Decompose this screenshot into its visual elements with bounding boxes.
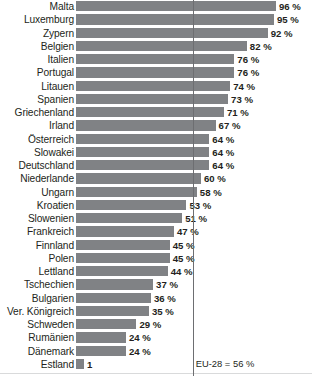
bar-track: 64 % [76,146,312,159]
bar [76,54,234,64]
bar [76,187,197,197]
category-label: Lettland [0,265,74,278]
bar-row: Malta96 % [0,0,312,13]
bar [76,253,170,263]
value-label: 71 % [224,106,249,119]
eu-average-reference-line [193,0,194,376]
bar-row: Portugal76 % [0,66,312,79]
bar-row: Estland1 [0,358,312,371]
bar-row: Spanien73 % [0,93,312,106]
bar [76,226,174,236]
bar-track: 51 % [76,212,312,225]
category-label: Slowenien [0,212,74,225]
bar [76,28,268,38]
bar-row: Belgien82 % [0,40,312,53]
bar-row: Irland67 % [0,119,312,132]
category-label: Griechenland [0,106,74,119]
bar-row: Zypern92 % [0,27,312,40]
bar [76,266,168,276]
bar-track: 60 % [76,172,312,185]
bar-track: 24 % [76,331,312,344]
category-label: Tschechien [0,278,74,291]
bar [76,107,224,117]
bar-track: 82 % [76,40,312,53]
bar-track: 92 % [76,27,312,40]
bar-track: 71 % [76,106,312,119]
bar [76,147,209,157]
value-label: 29 % [136,318,161,331]
value-label: 95 % [274,13,299,26]
bar [76,94,228,104]
value-label: 37 % [153,278,178,291]
value-label: 76 % [234,53,259,66]
value-label: 67 % [216,119,241,132]
bar-row: Deutschland64 % [0,159,312,172]
value-label: 82 % [247,40,272,53]
bar-track: 76 % [76,66,312,79]
category-label: Bulgarien [0,292,74,305]
category-label: Irland [0,119,74,132]
value-label: 24 % [126,345,151,358]
category-label: Italien [0,53,74,66]
value-label: 1 [84,358,92,371]
category-label: Litauen [0,80,74,93]
bar-row: Kroatien53 % [0,199,312,212]
bar [76,41,247,51]
bar [76,120,216,130]
value-label: 92 % [268,27,293,40]
bar-row: Litauen74 % [0,80,312,93]
bar [76,306,149,316]
bar-row: Ungarn58 % [0,186,312,199]
category-label: Ungarn [0,186,74,199]
value-label: 35 % [149,305,174,318]
bar [76,134,209,144]
bar-rows-container: Malta96 %Luxemburg95 %Zypern92 %Belgien8… [0,0,312,371]
category-label: Estland [0,358,74,371]
eu-average-label: EU-28 = 56 % [193,358,255,369]
bar [76,213,182,223]
category-label: Kroatien [0,199,74,212]
bar-track: 96 % [76,0,312,13]
bottom-divider [0,373,312,374]
category-label: Ver. Königreich [0,305,74,318]
bar [76,81,230,91]
bar-row: Griechenland71 % [0,106,312,119]
value-label: 51 % [182,212,207,225]
category-label: Deutschland [0,159,74,172]
bar [76,279,153,289]
bar-row: Österreich64 % [0,133,312,146]
category-label: Luxemburg [0,13,74,26]
bar-chart: Malta96 %Luxemburg95 %Zypern92 %Belgien8… [0,0,312,376]
bar-track: 35 % [76,305,312,318]
bar [76,346,126,356]
bar-track: 64 % [76,159,312,172]
bar-row: Slowakei64 % [0,146,312,159]
bar-row: Polen45 % [0,252,312,265]
bar-row: Schweden29 % [0,318,312,331]
bar-track: 58 % [76,186,312,199]
bar-track: 95 % [76,13,312,26]
bar-row: Niederlande60 % [0,172,312,185]
bar [76,67,234,77]
category-label: Schweden [0,318,74,331]
bar-track: 67 % [76,119,312,132]
value-label: 64 % [209,133,234,146]
bar-track: 64 % [76,133,312,146]
category-label: Finnland [0,239,74,252]
bar-track: 76 % [76,53,312,66]
bar-row: Slowenien51 % [0,212,312,225]
bar-track: 53 % [76,199,312,212]
category-label: Portugal [0,66,74,79]
value-label: 76 % [234,66,259,79]
category-label: Dänemark [0,345,74,358]
value-label: 47 % [174,225,199,238]
value-label: 24 % [126,331,151,344]
bar-track: 29 % [76,318,312,331]
value-label: 96 % [276,0,301,13]
bar-row: Lettland44 % [0,265,312,278]
category-label: Rumänien [0,331,74,344]
value-label: 74 % [230,80,255,93]
bar [76,14,274,24]
bar [76,319,136,329]
value-label: 45 % [170,239,195,252]
